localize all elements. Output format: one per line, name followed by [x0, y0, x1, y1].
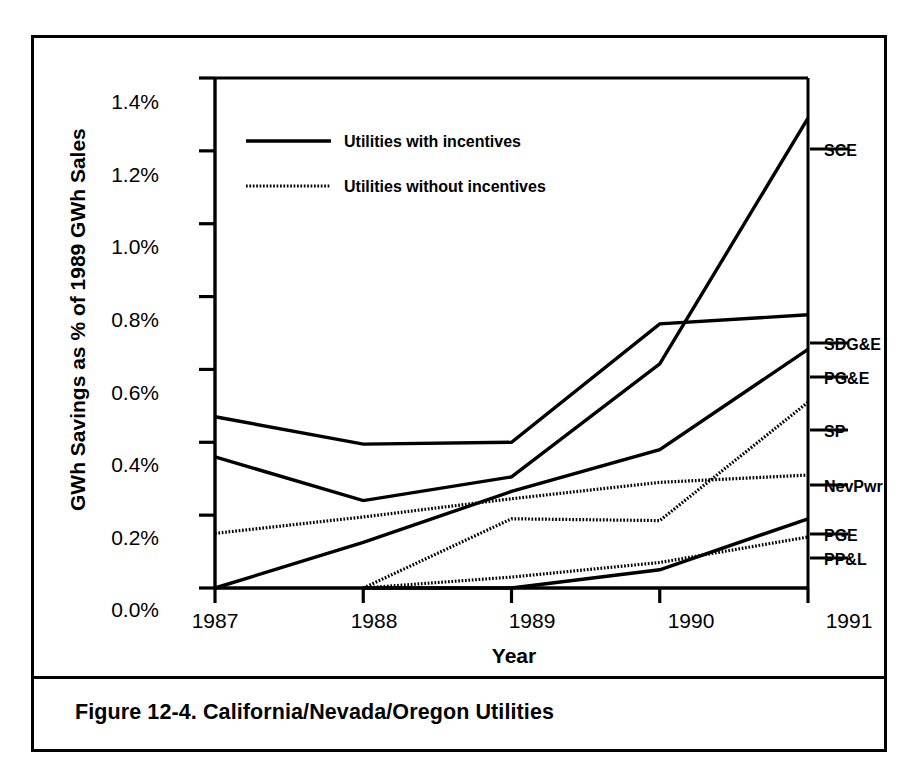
figure-caption: Figure 12-4. California/Nevada/Oregon Ut… [75, 700, 554, 725]
legend-swatches [246, 141, 331, 186]
caption-divider [34, 676, 884, 679]
chart-area: GWh Savings as % of 1989 GWh Sales 1.4% … [34, 38, 890, 678]
figure-page: GWh Savings as % of 1989 GWh Sales 1.4% … [0, 0, 922, 784]
series-line-sp [363, 402, 808, 588]
series-leader-lines [810, 149, 848, 558]
line-chart-plot [34, 38, 890, 678]
axes-frame [215, 78, 808, 588]
series-line-pge [363, 519, 808, 588]
figure-frame: GWh Savings as % of 1989 GWh Sales 1.4% … [31, 35, 887, 752]
data-series-group [215, 118, 808, 588]
series-line-sdg-e [215, 315, 808, 444]
